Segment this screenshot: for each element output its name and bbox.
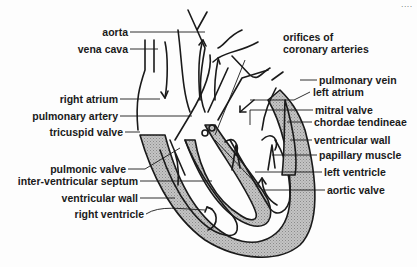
corner-mark: .... xyxy=(401,1,413,8)
pulmonary-artery-vessel xyxy=(175,55,210,140)
label-aorta: aorta xyxy=(102,27,128,38)
label-vena-cava: vena cava xyxy=(78,44,128,55)
label-tricuspid-valve: tricuspid valve xyxy=(49,127,123,138)
label-left-ventricle: left ventricle xyxy=(324,167,386,178)
label-right-ventricle: right ventricle xyxy=(75,209,144,220)
label-left-atrium: left atrium xyxy=(313,87,364,98)
right-atrium-wall xyxy=(137,40,145,130)
label-orifices-line2: coronary arteries xyxy=(283,44,369,55)
aorta-vessel xyxy=(178,30,190,112)
label-right-atrium: right atrium xyxy=(60,94,118,105)
label-inter-ventricular-septum: inter-ventricular septum xyxy=(18,176,138,187)
label-aortic-valve: aortic valve xyxy=(327,185,385,196)
label-pulmonic-valve: pulmonic valve xyxy=(50,164,126,175)
label-ventricular-wall-right: ventricular wall xyxy=(62,193,138,204)
label-ventricular-wall-left: ventricular wall xyxy=(314,135,390,146)
label-chordae-tendineae: chordae tendineae xyxy=(314,117,407,128)
label-pulmonary-artery: pulmonary artery xyxy=(32,111,118,122)
label-papillary-muscle: papillary muscle xyxy=(319,150,401,161)
label-orifices-line1: orifices of xyxy=(283,32,333,43)
label-pulmonary-vein: pulmonary vein xyxy=(319,75,397,86)
label-mitral-valve: mitral valve xyxy=(315,105,373,116)
